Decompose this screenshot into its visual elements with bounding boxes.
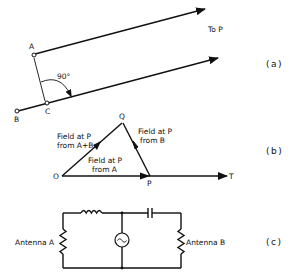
diagram-canvas: A B C 90° To P (a) O P Q T Field at P fr… — [0, 0, 293, 278]
antenna-b-label: Antenna B — [186, 238, 225, 247]
point-q-label: Q — [119, 112, 125, 121]
point-t-label: T — [228, 172, 234, 181]
point-a-label: A — [29, 42, 35, 51]
point-c-marker — [45, 101, 49, 105]
antenna-a-label: Antenna A — [15, 238, 55, 247]
inductor-icon — [81, 211, 102, 214]
panel-b-tag: (b) — [266, 146, 283, 156]
vector-b-label-line2: from B — [140, 136, 165, 145]
vector-ab-arrowhead-icon — [93, 141, 101, 150]
panel-c-tag: (c) — [266, 237, 282, 247]
vector-b-label-line1: Field at P — [138, 127, 173, 136]
panel-a-tag: (a) — [266, 59, 283, 69]
point-p-label: P — [147, 179, 152, 188]
ray-from-a-arrow — [35, 9, 205, 54]
panel-b: O P Q T Field at P from A+B Field at P f… — [53, 112, 283, 188]
junction-dot — [121, 267, 124, 270]
junction-dot — [121, 212, 124, 215]
point-a-marker — [32, 53, 36, 57]
vector-a-label-line2: from A — [92, 165, 118, 174]
antenna-a-resistor-icon — [60, 229, 66, 254]
panel-a: A B C 90° To P (a) — [14, 9, 283, 124]
right-angle-arc-icon — [41, 80, 70, 94]
vector-b-arrowhead-icon — [133, 141, 138, 149]
direction-label: To P — [207, 25, 223, 34]
angle-label: 90° — [57, 72, 71, 81]
vector-a-label-line1: Field at P — [88, 156, 123, 165]
point-c-label: C — [45, 107, 50, 116]
perpendicular-line — [34, 58, 45, 101]
point-b-label: B — [14, 115, 19, 124]
point-o-label: O — [53, 172, 59, 181]
point-b-marker — [15, 109, 19, 113]
vector-ab-label-line1: Field at P — [57, 132, 92, 141]
antenna-b-resistor-icon — [178, 229, 184, 254]
panel-c: Antenna A Antenna B (c) — [15, 208, 282, 269]
vector-ab-label-line2: from A+B — [57, 141, 93, 150]
